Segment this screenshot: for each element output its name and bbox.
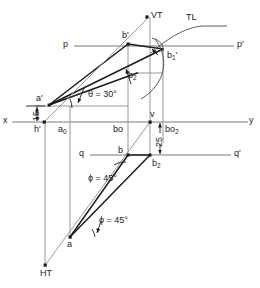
label-a-front: a' [36,94,43,103]
label-h-front: h' [34,125,41,134]
label-x-axis: x [3,116,8,125]
label-ht: HT [40,269,52,278]
point-b-top [127,154,130,157]
projection-diagram-svg [0,0,260,288]
reference-lines-group [12,46,248,155]
label-tl: TL [186,13,197,22]
front-link-b-b1 [128,44,163,49]
label-a-naught-sub: 0 [63,128,67,135]
label-b2-top-sub: 2 [157,162,161,169]
point-vt [145,15,148,18]
label-b2-top: b2 [152,159,161,170]
label-b-front: b' [122,31,129,40]
label-p-left: p [63,40,68,49]
label-phi-lower: ϕ = 45° [99,216,128,225]
label-bo2: bo2 [165,125,179,136]
label-phi-upper: ϕ = 45° [88,174,117,183]
point-a-front [48,104,51,107]
point-ht [44,264,47,267]
point-h-front [43,121,46,124]
label-q-right: q' [234,149,241,158]
point-v [149,121,152,124]
label-p-right: p' [237,40,244,49]
label-vt: VT [151,11,163,20]
label-a-top: a [67,240,72,249]
label-q-left: q [79,149,84,158]
phi-lower-angle-arc [92,229,95,237]
label-bo2-base: bo [165,124,175,134]
trace-lines-group [44,19,150,264]
label-b2-front: b2' [128,71,138,82]
label-v-point: v [150,110,155,119]
point-markers-group [43,15,152,266]
label-dim-25: 25 [155,137,164,147]
label-a-naught: a0 [58,125,67,136]
point-b-front [127,43,130,46]
point-b2-top [149,154,152,157]
label-bo2-sub: 2 [175,128,179,135]
horizontal-trace-line [46,122,150,264]
label-y-axis: y [249,116,254,125]
label-b-top: b [118,146,123,155]
label-dim-15: 15 [32,111,41,121]
label-b2-front-prime: ' [137,70,139,80]
label-theta: θ = 30° [88,90,117,99]
label-bo: bo [113,125,123,134]
label-b1-front: b1' [167,51,177,62]
label-b1-front-prime: ' [176,50,178,60]
engineering-drawing-canvas: VT TL p p' b' b1' b2' a' 15 x y h' a0 bo… [0,0,260,288]
